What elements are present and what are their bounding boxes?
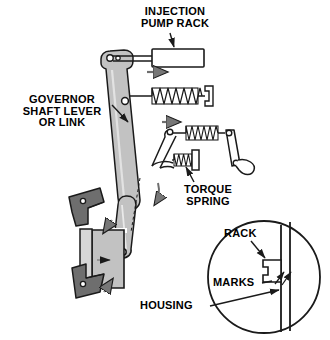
lever-top-pivot: [107, 55, 113, 61]
label-rack: RACK: [224, 228, 268, 240]
link-pivot-left: [167, 129, 173, 135]
torque-spring-cap: [192, 150, 199, 170]
bracket-upper: [69, 188, 104, 226]
mechanical-diagram-svg: [0, 0, 330, 340]
return-spring-upper: [129, 86, 213, 106]
rack-block: [152, 49, 204, 67]
bellcrank-hook: [236, 160, 254, 175]
label-housing: HOUSING: [140, 300, 210, 312]
governor-shaft-lever: [101, 50, 140, 210]
link-pivot-right: [226, 130, 232, 136]
spring-anchor-bracket: [205, 86, 213, 106]
label-marks: MARKS: [213, 277, 263, 289]
torque-spring-assembly: [172, 150, 199, 170]
lever-mid-pin: [122, 98, 129, 105]
lever-swing-arrow: [155, 183, 159, 204]
label-injection-pump-rack: INJECTION PUMP RACK: [127, 6, 223, 29]
diagram-canvas: INJECTION PUMP RACK GOVERNOR SHAFT LEVER…: [0, 0, 330, 340]
leader-injection-pump-rack: [170, 33, 174, 47]
label-governor-shaft-lever-or-link: GOVERNOR SHAFT LEVER OR LINK: [10, 94, 114, 129]
label-torque-spring: TORQUE SPRING: [172, 184, 244, 207]
bellcrank-and-mid-spring: [152, 122, 254, 175]
